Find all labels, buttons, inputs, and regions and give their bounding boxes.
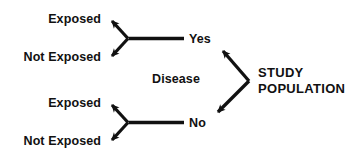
disease-value-no: No (189, 116, 206, 130)
population-to-yes-arrow (223, 51, 249, 81)
outcome-label-yes-exposed: Exposed (0, 12, 101, 26)
no-to-not-exposed-arrow (112, 123, 128, 141)
study-population-line1: STUDY (258, 66, 304, 81)
disease-value-yes: Yes (189, 32, 211, 46)
yes-to-not-exposed-arrow (112, 39, 128, 57)
outcome-label-no-not-exposed: Not Exposed (0, 134, 101, 148)
population-split-connectors (218, 51, 249, 112)
branch-no-connectors (112, 105, 184, 140)
study-population-line2: POPULATION (258, 82, 345, 97)
outcome-label-yes-not-exposed: Not Exposed (0, 50, 101, 64)
disease-label: Disease (152, 72, 200, 86)
no-to-exposed-arrow (112, 105, 128, 123)
yes-to-exposed-arrow (112, 21, 128, 39)
population-to-no-arrow (218, 81, 249, 112)
branch-yes-connectors (112, 21, 184, 56)
outcome-label-no-exposed: Exposed (0, 96, 101, 110)
diagram-canvas: Exposed Not Exposed Exposed Not Exposed … (0, 0, 358, 162)
